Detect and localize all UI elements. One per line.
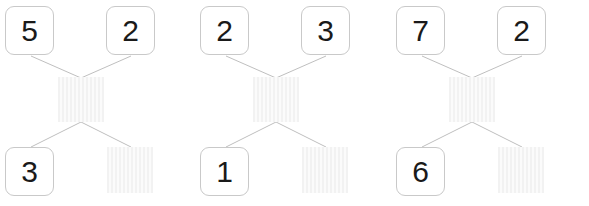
number-bond-group-1: 5 2 3 xyxy=(0,0,196,206)
connector-bottom-right xyxy=(472,122,522,147)
cell-top-right[interactable]: 2 xyxy=(497,6,546,55)
blank-box-bottom-right[interactable] xyxy=(107,147,153,193)
connector-top-right xyxy=(472,56,522,78)
cell-value: 6 xyxy=(412,157,429,187)
cell-value: 5 xyxy=(21,16,38,46)
cell-top-left[interactable]: 7 xyxy=(396,6,445,55)
connector-bottom-right xyxy=(81,122,131,147)
cell-bottom-left[interactable]: 1 xyxy=(200,147,249,196)
connector-top-right xyxy=(276,56,326,78)
cell-value: 2 xyxy=(122,16,139,46)
connector-bottom-left xyxy=(226,122,276,147)
cell-value: 3 xyxy=(21,157,38,187)
connector-bottom-right xyxy=(276,122,326,147)
cell-value: 2 xyxy=(513,16,530,46)
blank-box-bottom-right[interactable] xyxy=(498,147,544,193)
cell-top-right[interactable]: 2 xyxy=(106,6,155,55)
number-bond-group-2: 2 3 1 xyxy=(195,0,391,206)
cell-value: 3 xyxy=(317,16,334,46)
blank-box-bottom-right[interactable] xyxy=(302,147,348,193)
connector-top-left xyxy=(226,56,276,78)
cell-top-left[interactable]: 2 xyxy=(200,6,249,55)
cell-top-right[interactable]: 3 xyxy=(301,6,350,55)
blank-box-middle[interactable] xyxy=(449,77,495,122)
number-bond-group-3: 7 2 6 xyxy=(391,0,587,206)
connector-top-left xyxy=(422,56,472,78)
cell-bottom-left[interactable]: 3 xyxy=(5,147,54,196)
connector-top-left xyxy=(31,56,81,78)
blank-box-middle[interactable] xyxy=(58,77,104,122)
cell-top-left[interactable]: 5 xyxy=(5,6,54,55)
blank-box-middle[interactable] xyxy=(253,77,299,122)
connector-bottom-left xyxy=(31,122,81,147)
connector-bottom-left xyxy=(422,122,472,147)
number-bond-worksheet: 5 2 3 2 3 1 xyxy=(0,0,589,206)
cell-value: 7 xyxy=(412,16,429,46)
cell-bottom-left[interactable]: 6 xyxy=(396,147,445,196)
connector-top-right xyxy=(81,56,131,78)
cell-value: 2 xyxy=(216,16,233,46)
cell-value: 1 xyxy=(216,157,233,187)
